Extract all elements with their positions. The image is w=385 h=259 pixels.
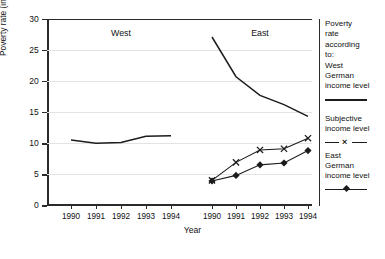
x-tick-label-west-1994: 1994 — [162, 212, 180, 221]
y-tick-label-5: 5 — [34, 169, 39, 179]
legend-sample-subjective-line: × — [325, 136, 385, 149]
y-tick-label-20: 20 — [29, 76, 39, 86]
data-point-marker-diamond — [233, 173, 238, 178]
legend-item-3-line-1: East — [325, 151, 385, 161]
legend-heading-1: Poverty — [325, 19, 385, 29]
series-line-east-x — [212, 138, 308, 180]
dash-right-icon — [352, 142, 367, 143]
y-axis-title: Poverty rate (in %) — [0, 0, 8, 56]
data-point-marker-diamond — [281, 160, 286, 165]
legend-item-2-line-2: income level — [325, 124, 385, 134]
dash-left-icon — [325, 142, 339, 143]
data-point-marker-x — [233, 159, 239, 165]
data-point-marker-diamond — [257, 162, 262, 167]
y-tick-label-15: 15 — [29, 107, 39, 117]
legend: Poverty rate according to: West German i… — [319, 19, 385, 206]
legend-item-3-line-3: income level — [325, 171, 385, 181]
x-tick-label-east-1993: 1993 — [275, 212, 293, 221]
legend-heading-2: rate — [325, 29, 385, 39]
legend-item-2-line-1: Subjective — [325, 114, 385, 124]
legend-sample-west-german-line — [325, 93, 385, 106]
series-line-east-none — [212, 37, 308, 116]
legend-sample-east-german-line — [325, 183, 385, 196]
series-layer — [47, 19, 312, 206]
x-tick-label-east-1994: 1994 — [299, 212, 317, 221]
legend-heading-4: to: — [325, 50, 385, 60]
data-point-marker-x — [305, 135, 311, 141]
legend-item-1-line-1: West — [325, 61, 385, 71]
legend-item-1-line-2: German — [325, 71, 385, 81]
cross-marker-icon: × — [342, 136, 347, 149]
x-tick-label-east-1991: 1991 — [227, 212, 245, 221]
x-tick-label-east-1992: 1992 — [251, 212, 269, 221]
legend-item-3-line-2: German — [325, 161, 385, 171]
legend-item-1-line-3: income level — [325, 81, 385, 91]
y-tick-label-10: 10 — [29, 138, 39, 148]
x-tick-label-west-1991: 1991 — [87, 212, 105, 221]
data-point-marker-diamond — [305, 148, 310, 153]
x-axis-title: Year — [0, 225, 385, 235]
y-tick-label-0: 0 — [34, 200, 39, 210]
y-tick-label-25: 25 — [29, 45, 39, 55]
x-tick-label-west-1990: 1990 — [62, 212, 80, 221]
plot-area: 30 25 20 15 10 5 0 1990 1991 1992 1993 1… — [47, 19, 312, 206]
series-line-west-none — [71, 136, 171, 143]
legend-heading-3: according — [325, 40, 385, 50]
x-tick-label-west-1992: 1992 — [112, 212, 130, 221]
chart-root: 30 25 20 15 10 5 0 1990 1991 1992 1993 1… — [0, 0, 385, 259]
diamond-marker-icon — [343, 185, 350, 192]
x-tick-label-east-1990: 1990 — [203, 212, 221, 221]
y-tick-label-30: 30 — [29, 14, 39, 24]
x-tick-label-west-1993: 1993 — [137, 212, 155, 221]
solid-line-icon — [325, 99, 367, 101]
